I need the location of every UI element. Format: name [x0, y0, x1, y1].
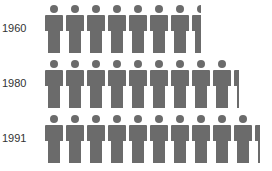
person-icon [128, 4, 149, 54]
person-icons [44, 4, 201, 54]
row-1980: 1980 [0, 57, 272, 109]
person-icon [107, 4, 128, 54]
person-icons [44, 59, 239, 109]
person-icon [86, 114, 107, 164]
partial-person-icon [191, 4, 201, 54]
person-icon [233, 114, 254, 164]
person-icon [128, 59, 149, 109]
year-label: 1991 [2, 132, 26, 144]
person-icon [191, 114, 212, 164]
partial-person-icon [254, 114, 260, 164]
partial-person-icon [233, 59, 239, 109]
person-icon [65, 59, 86, 109]
person-icon [65, 4, 86, 54]
year-label: 1980 [2, 77, 26, 89]
person-icon [212, 59, 233, 109]
person-icon [170, 114, 191, 164]
person-icon [149, 59, 170, 109]
person-icon [44, 114, 65, 164]
person-icon [107, 59, 128, 109]
year-label: 1960 [2, 22, 26, 34]
person-icon [107, 114, 128, 164]
person-icon [86, 4, 107, 54]
person-icon [170, 59, 191, 109]
person-icon [65, 114, 86, 164]
person-icons [44, 114, 260, 164]
person-icon [128, 114, 149, 164]
row-1991: 1991 [0, 112, 272, 164]
person-icon [86, 59, 107, 109]
person-icon [191, 59, 212, 109]
person-icon [212, 114, 233, 164]
person-icon [149, 114, 170, 164]
person-icon [149, 4, 170, 54]
person-icon [44, 4, 65, 54]
person-icon [170, 4, 191, 54]
person-icon [44, 59, 65, 109]
row-1960: 1960 [0, 2, 272, 54]
